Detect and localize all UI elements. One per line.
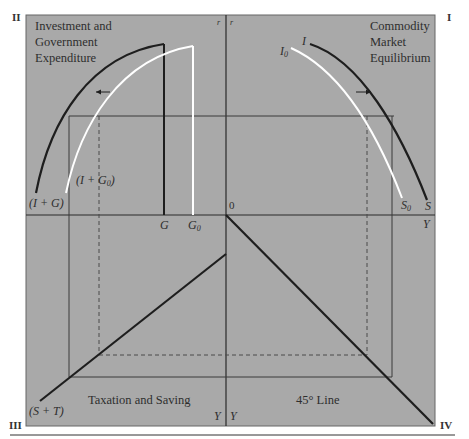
i-plus-g0-label-main: (I + G bbox=[76, 173, 107, 187]
q2-title-line-3: Expenditure bbox=[35, 51, 97, 65]
q1-title-line-1: Commodity bbox=[370, 19, 430, 33]
origin-label: 0 bbox=[229, 199, 235, 211]
q2-title-line-1: Investment and bbox=[35, 19, 112, 33]
q1-title-line-3: Equilibrium bbox=[370, 51, 431, 65]
i-plus-g-label: (I + G) bbox=[29, 196, 64, 210]
i0-label-sub: 0 bbox=[284, 50, 288, 59]
g-label: G bbox=[160, 218, 169, 232]
quadrant-numeral-i: I bbox=[447, 11, 451, 23]
s0-label-sub: 0 bbox=[407, 204, 411, 213]
g0-label-main: G bbox=[188, 218, 197, 232]
s-plus-t-label: (S + T) bbox=[29, 404, 64, 418]
quadrant-numeral-iv: IV bbox=[440, 419, 452, 431]
g0-label-sub: 0 bbox=[197, 224, 201, 233]
s-curve-label: S bbox=[425, 199, 431, 213]
q2-title-line-2: Government bbox=[35, 35, 98, 49]
q3-title: Taxation and Saving bbox=[88, 393, 191, 407]
four-quadrant-diagram: Investment and Government Expenditure Co… bbox=[0, 0, 469, 439]
quadrant-numeral-iii: III bbox=[9, 419, 22, 431]
q4-title: 45° Line bbox=[296, 393, 340, 407]
i-plus-g0-label-close: ) bbox=[110, 173, 115, 187]
quadrant-numeral-ii: II bbox=[12, 11, 21, 23]
q1-title-line-2: Market bbox=[370, 35, 407, 49]
